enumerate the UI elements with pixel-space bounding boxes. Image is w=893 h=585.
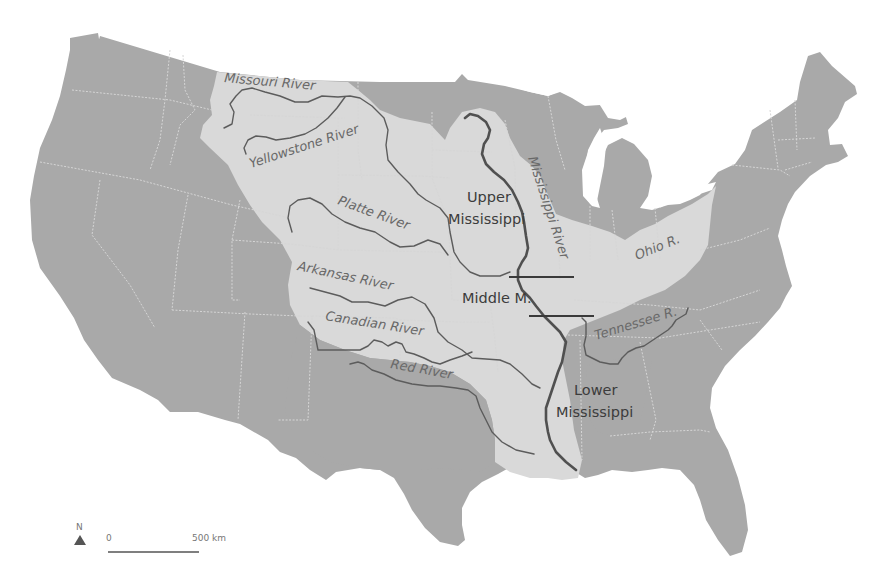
middle-mississippi-label: Middle M. [462,290,532,306]
lower-mississippi-label-line1: Lower [574,382,617,398]
north-arrow-icon [74,535,86,545]
scale-bar-start-label: 0 [106,533,112,543]
upper-mississippi-label-line2: Mississippi [448,211,525,227]
upper-mississippi-label-line1: Upper [467,189,511,205]
north-arrow: N [74,522,86,545]
mississippi-basin-map: Missouri River Yellowstone River Platte … [0,0,893,585]
north-arrow-label: N [76,522,83,532]
scale-bar-end-label: 500 km [192,533,226,543]
lower-mississippi-label-line2: Mississippi [556,404,633,420]
scale-bar: 0 500 km [106,533,226,552]
